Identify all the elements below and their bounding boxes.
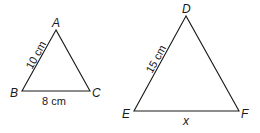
- similar-triangles-diagram: A B C 10 cm 8 cm D E F 15 cm x: [0, 0, 260, 133]
- vertex-label-f: F: [241, 107, 249, 121]
- vertex-label-c: C: [92, 86, 101, 100]
- vertex-label-d: D: [182, 2, 191, 16]
- triangle-def: D E F 15 cm x: [122, 2, 249, 128]
- vertex-label-e: E: [122, 107, 131, 121]
- side-de-length: 15 cm: [143, 43, 168, 75]
- vertex-label-b: B: [10, 86, 18, 100]
- side-bc-length: 8 cm: [42, 95, 66, 107]
- side-ab-length: 10 cm: [23, 39, 48, 71]
- side-ef-unknown: x: [182, 114, 190, 128]
- vertex-label-a: A: [51, 16, 60, 30]
- triangle-abc: A B C 10 cm 8 cm: [10, 16, 101, 107]
